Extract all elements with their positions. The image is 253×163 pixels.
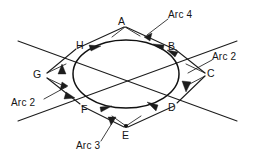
construction-lines: [47, 27, 205, 127]
arc-callout-label-arc3: Arc 3: [76, 141, 100, 151]
point-label-A: A: [118, 16, 125, 27]
point-label-D: D: [168, 102, 176, 113]
arrowhead-lower-left: [64, 92, 75, 99]
vertex-dot-E: [124, 124, 128, 128]
main-ellipse: [73, 40, 179, 108]
arrowhead-F-bottom: [100, 106, 112, 112]
arrowhead-H-top: [89, 45, 101, 51]
arrowhead-arc2-left: [60, 82, 68, 90]
arrowhead-chord-lower-right: [147, 102, 158, 111]
point-label-C: C: [207, 68, 215, 79]
point-label-H: H: [76, 40, 84, 51]
point-label-E: E: [122, 130, 129, 141]
leader-arc4: [147, 19, 168, 35]
point-label-B: B: [168, 41, 175, 52]
vertex-tangent-marks: [47, 27, 205, 126]
point-label-G: G: [33, 69, 41, 80]
line-C-D: [177, 76, 205, 103]
point-label-F: F: [81, 104, 88, 115]
arc-callout-label-arc2-right: Arc 2: [212, 52, 236, 62]
callout-leaders: [44, 19, 212, 141]
line-A-H: [78, 27, 124, 48]
arrowhead-B-top: [153, 44, 164, 50]
arc-callout-label-arc2-left: Arc 2: [11, 98, 35, 108]
arc-callout-label-arc4: Arc 4: [168, 10, 192, 20]
geometry-figure: A B C D E F G H Arc 4 Arc 2 Arc 2 Arc 3: [0, 0, 253, 163]
